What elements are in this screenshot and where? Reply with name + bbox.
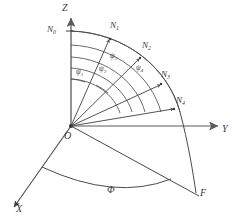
diagram-canvas	[0, 0, 234, 221]
node-dot-n1	[109, 38, 111, 40]
figure-container: Z Y X O N0 N1 N2 N3 N4 ψ1 ψ2 ψ3 ψ4 Φ F	[0, 0, 234, 221]
phi-label: Φ	[107, 185, 115, 195]
psi-label-4-sub: 4	[141, 68, 143, 73]
radial-line-n1	[71, 40, 109, 126]
node-label-n0: N0	[47, 25, 56, 34]
node-label-n2-sub: 2	[148, 45, 151, 51]
psi-label-4: ψ4	[136, 64, 143, 72]
meridian-arc	[71, 31, 196, 193]
node-label-n1-sub: 1	[116, 25, 119, 31]
node-dot-n3	[160, 83, 162, 85]
psi-label-1: ψ1	[76, 68, 83, 76]
psi-label-2-name: ψ	[99, 64, 104, 73]
node-dot-n2	[139, 57, 141, 59]
node-label-n1: N1	[110, 21, 119, 30]
psi-arcs	[71, 79, 108, 93]
axis-x-line	[14, 126, 71, 207]
psi-label-1-name: ψ	[76, 67, 81, 76]
node-label-n0-sub: 0	[53, 29, 56, 35]
origin-label: O	[64, 131, 71, 141]
radial-lines	[71, 40, 173, 126]
psi-label-3-name: ψ	[110, 51, 115, 60]
psi-label-2: ψ2	[99, 65, 106, 73]
axis-label-z: Z	[62, 3, 68, 13]
node-label-n3: N3	[161, 70, 170, 79]
radial-line-n3	[71, 85, 160, 126]
node-label-n4: N4	[176, 96, 185, 105]
psi-label-3: ψ3	[110, 52, 117, 60]
node-label-n4-sub: 4	[182, 100, 185, 106]
node-label-n3-sub: 3	[167, 74, 170, 80]
node-label-n2: N2	[142, 41, 151, 50]
latitude-arc-3	[71, 57, 145, 112]
psi-label-1-sub: 1	[81, 72, 83, 77]
line-origin-to-foot	[71, 126, 199, 196]
psi-label-3-sub: 3	[115, 56, 117, 61]
foot-label-f: F	[200, 188, 206, 198]
axis-label-y: Y	[222, 124, 228, 134]
psi-label-2-sub: 2	[104, 69, 106, 74]
node-dot-n4	[173, 108, 175, 110]
axis-x	[14, 126, 71, 207]
psi-label-4-name: ψ	[136, 63, 141, 72]
axis-label-x: X	[16, 204, 22, 214]
